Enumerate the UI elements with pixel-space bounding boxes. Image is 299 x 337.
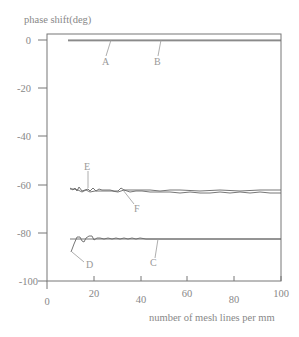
y-tick-minus40: -40 <box>17 131 31 142</box>
leader-A <box>106 40 111 56</box>
y-tick-labels: 0 -20 -40 -60 -80 -100 <box>17 35 38 287</box>
label-F: F <box>134 203 140 214</box>
y-axis-ticks <box>38 40 47 281</box>
x-axis-ticks <box>47 276 281 289</box>
y-tick-0: 0 <box>26 35 31 46</box>
y-tick-minus80: -80 <box>17 228 31 239</box>
x-tick-20: 20 <box>89 288 100 299</box>
label-D: D <box>86 259 93 270</box>
leader-D <box>72 252 84 262</box>
leader-B <box>158 40 161 56</box>
label-A: A <box>102 56 110 67</box>
y-tick-minus20: -20 <box>17 83 31 94</box>
phase-shift-chart: phase shift(deg) 0 -20 -40 -60 -80 -100 … <box>0 0 299 337</box>
x-tick-60: 60 <box>182 288 193 299</box>
label-B: B <box>154 56 161 67</box>
plot-frame <box>47 34 281 281</box>
x-tick-labels: 0 20 40 60 80 100 <box>44 288 289 307</box>
y-tick-minus100: -100 <box>19 276 38 287</box>
leader-C <box>155 239 158 258</box>
y-tick-minus60: -60 <box>17 180 31 191</box>
x-tick-100: 100 <box>273 288 289 299</box>
label-E: E <box>84 161 90 172</box>
curve-E <box>70 187 281 191</box>
leader-F <box>123 190 134 204</box>
x-tick-0: 0 <box>44 296 49 307</box>
x-tick-40: 40 <box>136 294 147 305</box>
curve-D <box>71 236 281 252</box>
y-axis-label: phase shift(deg) <box>24 14 92 26</box>
x-tick-80: 80 <box>229 294 240 305</box>
x-axis-label: number of mesh lines per mm <box>149 312 275 323</box>
label-C: C <box>150 257 157 268</box>
curves-A-B <box>68 40 281 41</box>
